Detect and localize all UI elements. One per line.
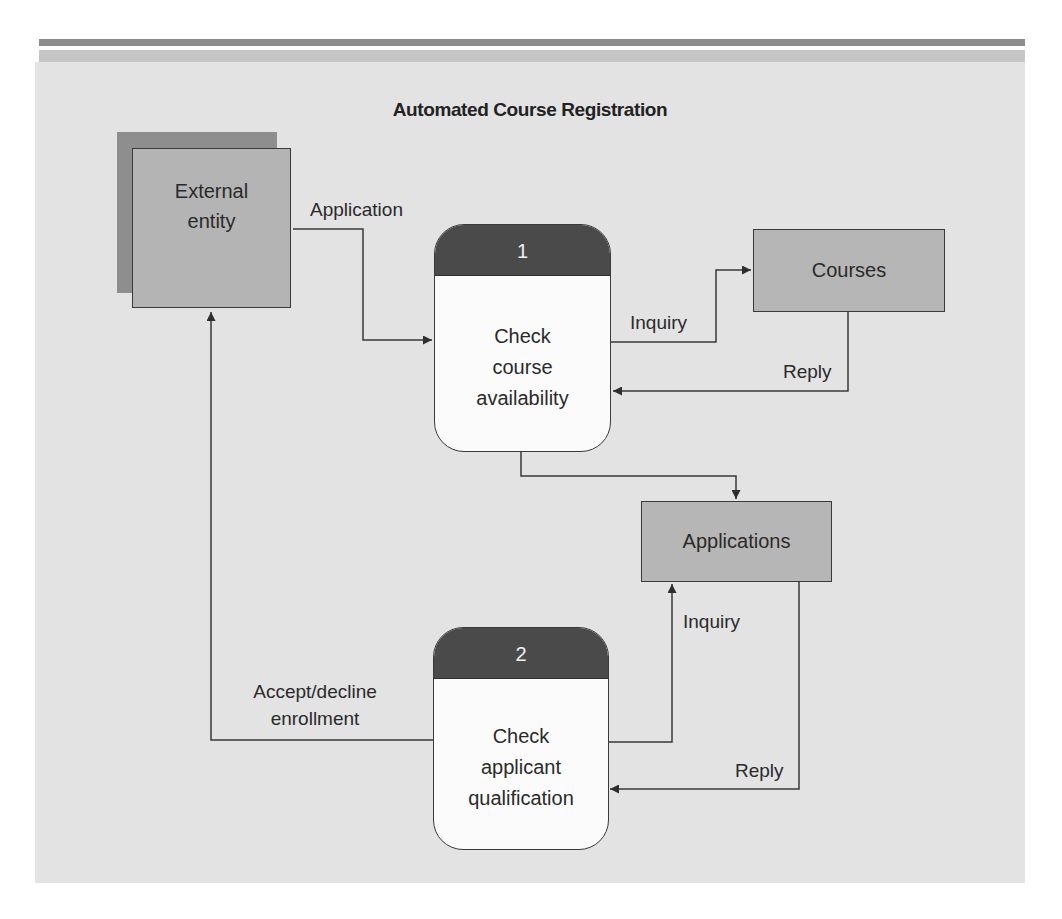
process-1-line-3: availability [435, 383, 610, 414]
process-2-line-2: applicant [434, 752, 608, 783]
flow-accept-decline [211, 312, 433, 740]
label-accept-decline-line-2: enrollment [250, 707, 380, 731]
process-2-line-3: qualification [434, 783, 608, 814]
process-2-line-1: Check [434, 721, 608, 752]
process-2-label: Check applicant qualification [434, 679, 608, 814]
external-entity: External entity [132, 148, 291, 308]
external-entity-label-2: entity [175, 206, 248, 236]
data-store-applications-label: Applications [683, 530, 791, 553]
process-2: 2 Check applicant qualification [433, 627, 609, 850]
label-inquiry-applications: Inquiry [683, 610, 740, 634]
data-store-applications: Applications [641, 501, 832, 582]
data-store-courses: Courses [753, 229, 945, 312]
data-store-courses-label: Courses [812, 259, 886, 282]
external-entity-label-1: External [175, 176, 248, 206]
flow-inquiry-applications [608, 584, 672, 742]
label-application: Application [310, 198, 403, 222]
process-1-line-2: course [435, 352, 610, 383]
label-accept-decline: Accept/decline enrollment [250, 680, 380, 731]
label-accept-decline-line-1: Accept/decline [250, 680, 380, 704]
process-1-line-1: Check [435, 321, 610, 352]
process-2-number: 2 [434, 628, 608, 679]
label-reply-applications: Reply [735, 759, 784, 783]
process-1-label: Check course availability [435, 276, 610, 414]
process-1: 1 Check course availability [434, 224, 611, 452]
flow-application [293, 229, 432, 340]
flow-process1-applications [521, 452, 736, 499]
process-1-number: 1 [435, 225, 610, 276]
label-reply-courses: Reply [783, 360, 832, 384]
label-inquiry-courses: Inquiry [630, 311, 687, 335]
